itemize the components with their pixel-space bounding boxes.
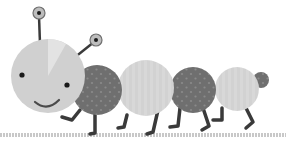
caterpillar-illustration xyxy=(0,0,286,141)
head xyxy=(11,39,85,113)
eye-icon xyxy=(19,72,24,77)
body-segment-light xyxy=(118,60,174,116)
body-segment-light xyxy=(215,67,259,111)
body-segment-dark xyxy=(170,67,216,113)
eye-icon xyxy=(64,82,69,87)
ground-line xyxy=(0,133,286,137)
